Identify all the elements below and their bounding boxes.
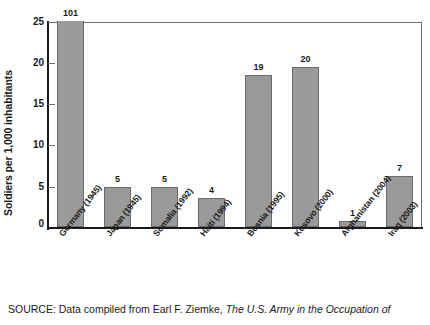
y-axis-tick-labels: 25 20 15 10 5 0	[10, 0, 44, 325]
y-tick-label-20: 20	[16, 58, 44, 68]
y-tick-label-0: 0	[16, 219, 44, 229]
bar-5[interactable]: 19	[245, 0, 272, 229]
y-tick-label-5: 5	[16, 182, 44, 192]
bar-7[interactable]: 1	[339, 0, 366, 229]
bar-value-label: 5	[115, 175, 120, 184]
source-text: Data compiled from Earl F. Ziemke,	[56, 303, 226, 315]
bar-value-label: 7	[397, 164, 402, 173]
bar-1[interactable]: 101	[57, 0, 84, 229]
y-tick-label-10: 10	[16, 140, 44, 150]
source-note: SOURCE: Data compiled from Earl F. Ziemk…	[8, 303, 426, 316]
bar-6[interactable]: 20	[292, 0, 319, 229]
bar-value-label: 20	[300, 55, 310, 64]
bar-8[interactable]: 7	[386, 0, 413, 229]
bar-4[interactable]: 4	[198, 0, 225, 229]
bar-value-label: 19	[253, 63, 263, 72]
bar-value-label: 5	[162, 175, 167, 184]
source-title-italic: The U.S. Army in the Occupation of	[226, 303, 391, 315]
x-axis-category-labels: Germany (1945)Japan (1945)Somalia (1992)…	[47, 229, 423, 299]
y-tick-label-15: 15	[16, 99, 44, 109]
source-label: SOURCE:	[8, 303, 56, 315]
y-tick-label-25: 25	[16, 17, 44, 27]
bar-2[interactable]: 5	[104, 0, 131, 229]
bar-value-label: 4	[209, 186, 214, 195]
bar-rect	[57, 21, 84, 227]
bar-3[interactable]: 5	[151, 0, 178, 229]
bar-chart-figure: Soldiers per 1,000 inhabitants 25 20 15 …	[0, 0, 430, 325]
bar-value-label: 101	[63, 9, 78, 18]
